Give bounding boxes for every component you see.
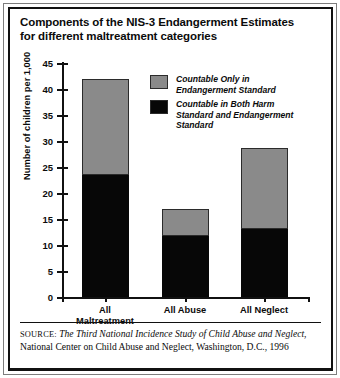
x-category-label: All Abuse [164,305,207,316]
x-tick [105,297,107,302]
y-tick [57,219,68,221]
x-category-label: All Neglect [240,305,288,316]
legend-swatch-both-harm-and-endangerment [150,100,168,114]
chart-legend: Countable Only in Endangerment Standard … [150,74,310,135]
legend-swatch-endangerment-only [150,75,168,89]
bar-segment-endangerment-only [241,148,288,229]
bar-segment-both-harm-and-endangerment [82,175,129,297]
x-category-label-line: All Neglect [240,305,288,316]
x-category-label-line: All [76,305,134,316]
bar-segment-both-harm-and-endangerment [241,229,288,297]
source-note: SOURCE: The Third National Incidence Stu… [20,328,320,352]
figure-bottom-rule [8,368,333,370]
y-axis-line [62,62,64,298]
y-tick-label: 0 [48,292,53,303]
source-divider [20,322,321,323]
bar-all-neglect [241,148,288,297]
y-tick-label: 25 [42,162,53,173]
x-tick [185,297,187,302]
y-tick [57,141,68,143]
y-tick-label: 15 [42,214,53,225]
y-tick-label: 20 [42,188,53,199]
bar-segment-endangerment-only [162,209,209,236]
y-axis-title: Number of children per 1,000 [22,52,32,180]
y-tick-label: 5 [48,266,53,277]
x-tick-edge [308,297,310,302]
y-tick [57,245,68,247]
bar-segment-both-harm-and-endangerment [162,236,209,297]
bar-all-maltreatment [82,79,129,297]
y-tick [57,89,68,91]
y-tick-label: 30 [42,136,53,147]
y-tick-label: 35 [42,110,53,121]
y-tick-label: 45 [42,58,53,69]
bar-all-abuse [162,209,209,297]
y-tick [57,63,68,65]
x-tick-edge [62,297,64,302]
x-tick [264,297,266,302]
chart-figure: Components of the NIS-3 Endangerment Est… [0,0,340,378]
bar-segment-endangerment-only [82,79,129,175]
legend-item: Countable Only in Endangerment Standard [150,74,310,95]
source-title: The Third National Incidence Study of Ch… [59,328,304,339]
y-tick [57,193,68,195]
y-tick-label: 40 [42,84,53,95]
source-prefix: SOURCE: [20,330,57,339]
chart-title: Components of the NIS-3 Endangerment Est… [20,15,310,43]
y-tick [57,167,68,169]
y-tick [57,115,68,117]
legend-label: Countable in Both Harm Standard and Enda… [176,99,310,131]
y-tick-label: 10 [42,240,53,251]
legend-item: Countable in Both Harm Standard and Enda… [150,99,310,131]
legend-label: Countable Only in Endangerment Standard [176,74,310,95]
x-category-label: AllMaltreatment [76,305,134,327]
y-tick [57,271,68,273]
x-category-label-line: All Abuse [164,305,207,316]
